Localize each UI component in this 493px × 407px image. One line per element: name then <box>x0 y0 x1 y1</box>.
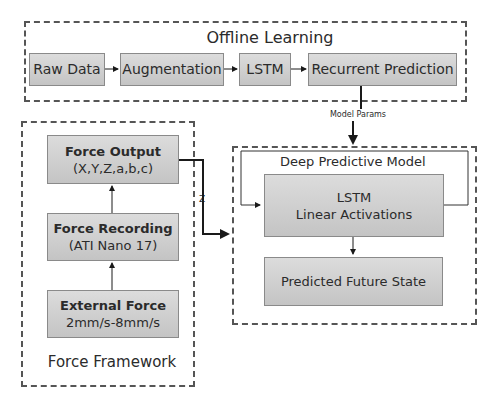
connector-arrows <box>0 0 493 407</box>
